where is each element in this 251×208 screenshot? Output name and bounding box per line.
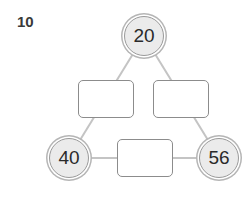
answer-box-left[interactable] — [78, 80, 134, 118]
answer-box-bottom[interactable] — [117, 139, 173, 177]
answer-box-right[interactable] — [153, 80, 209, 118]
circle-top: 20 — [124, 16, 164, 56]
circle-bottom-right: 56 — [199, 138, 239, 178]
circle-bottom-left: 40 — [49, 138, 89, 178]
